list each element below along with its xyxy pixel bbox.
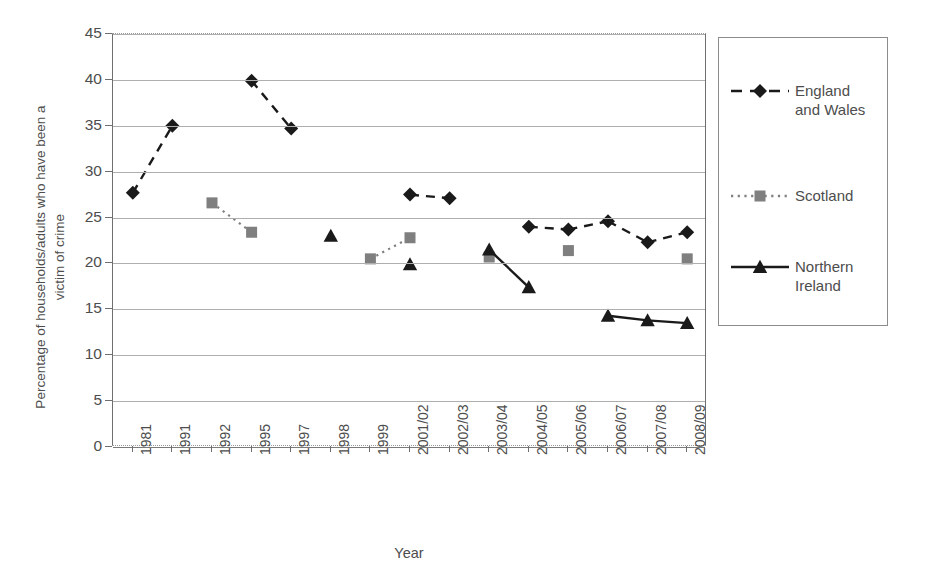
y-axis-line	[112, 34, 113, 445]
y-tick-mark-15	[105, 308, 112, 309]
series-northern-ireland	[324, 229, 695, 329]
x-tick-mark-2008-09	[686, 446, 687, 452]
gridline-10	[113, 355, 705, 356]
legend-label: Scotland	[795, 186, 853, 205]
x-tick-mark-2005-06	[567, 446, 568, 452]
triangle-marker-icon	[729, 258, 791, 276]
data-point-diamond	[680, 225, 694, 239]
data-point-square	[246, 227, 257, 238]
x-tick-label-1991: 1991	[177, 424, 193, 455]
y-tick-mark-20	[105, 262, 112, 263]
y-tick-label-20: 20	[68, 253, 102, 271]
x-tick-mark-2007-08	[647, 446, 648, 452]
x-tick-label-2001-02: 2001/02	[415, 404, 431, 455]
chart-figure: Percentage of households/adults who have…	[0, 0, 935, 586]
x-tick-label-1999: 1999	[375, 424, 391, 455]
plot-right-border	[705, 34, 706, 445]
data-series-layer	[113, 34, 707, 447]
x-tick-label-2004-05: 2004/05	[534, 404, 550, 455]
x-tick-label-1998: 1998	[336, 424, 352, 455]
gridline-25	[113, 218, 705, 219]
data-point-diamond	[522, 220, 536, 234]
y-tick-mark-0	[105, 446, 112, 447]
series-segment	[648, 320, 688, 323]
legend-item-scotland[interactable]: Scotland	[729, 186, 853, 205]
legend-label: England and Wales	[795, 81, 865, 119]
gridline-15	[113, 309, 705, 310]
y-tick-mark-5	[105, 400, 112, 401]
data-point-triangle	[482, 242, 496, 255]
x-tick-label-1981: 1981	[138, 424, 154, 455]
y-tick-label-25: 25	[68, 208, 102, 226]
gridline-45	[113, 34, 705, 35]
data-point-diamond	[561, 222, 575, 236]
x-tick-label-1992: 1992	[217, 424, 233, 455]
series-segment	[370, 238, 410, 259]
x-tick-mark-2002-03	[449, 446, 450, 452]
x-tick-label-1997: 1997	[296, 424, 312, 455]
x-tick-mark-2004-05	[528, 446, 529, 452]
x-tick-label-2006-07: 2006/07	[613, 404, 629, 455]
gridline-20	[113, 263, 705, 264]
y-tick-label-0: 0	[68, 437, 102, 455]
y-tick-label-30: 30	[68, 162, 102, 180]
data-point-diamond	[601, 214, 615, 228]
gridline-5	[113, 401, 705, 402]
y-tick-label-15: 15	[68, 299, 102, 317]
x-tick-mark-2001-02	[409, 446, 410, 452]
y-tick-mark-40	[105, 79, 112, 80]
x-tick-mark-1999	[369, 446, 370, 452]
x-tick-mark-1998	[330, 446, 331, 452]
series-segment	[568, 221, 608, 229]
data-point-square	[405, 232, 416, 243]
series-segment	[608, 221, 648, 242]
data-point-triangle	[601, 309, 615, 322]
data-point-diamond	[443, 191, 457, 205]
gridline-35	[113, 126, 705, 127]
x-tick-mark-1981	[132, 446, 133, 452]
y-axis-title: Percentage of households/adults who have…	[31, 42, 69, 472]
series-england-and-wales	[126, 74, 694, 250]
legend-item-england-and-wales[interactable]: England and Wales	[729, 81, 865, 119]
x-tick-mark-2006-07	[607, 446, 608, 452]
square-marker-icon	[729, 187, 791, 205]
x-tick-mark-1997	[290, 446, 291, 452]
data-point-square	[207, 197, 218, 208]
x-tick-mark-1991	[171, 446, 172, 452]
x-tick-mark-2003-04	[488, 446, 489, 452]
y-tick-mark-10	[105, 354, 112, 355]
data-point-diamond	[403, 188, 417, 202]
x-tick-label-2003-04: 2003/04	[494, 404, 510, 455]
y-tick-mark-45	[105, 33, 112, 34]
y-tick-mark-25	[105, 217, 112, 218]
data-point-diamond	[126, 186, 140, 200]
legend-label: Northern Ireland	[795, 257, 853, 295]
legend-box: England and WalesScotlandNorthern Irelan…	[718, 37, 888, 326]
series-segment	[648, 232, 688, 242]
data-point-square	[563, 245, 574, 256]
series-segment	[252, 81, 292, 129]
x-tick-label-1995: 1995	[257, 424, 273, 455]
data-point-diamond	[641, 235, 655, 249]
plot-area	[112, 33, 706, 446]
x-tick-label-2005-06: 2005/06	[573, 404, 589, 455]
y-tick-label-10: 10	[68, 345, 102, 363]
gridline-30	[113, 172, 705, 173]
x-tick-mark-1992	[211, 446, 212, 452]
diamond-marker-icon	[729, 82, 791, 100]
y-tick-label-40: 40	[68, 70, 102, 88]
y-tick-mark-35	[105, 125, 112, 126]
series-segment	[133, 126, 173, 193]
x-tick-label-2007-08: 2007/08	[653, 404, 669, 455]
y-tick-label-35: 35	[68, 116, 102, 134]
y-tick-mark-30	[105, 171, 112, 172]
gridline-40	[113, 80, 705, 81]
x-axis-title: Year	[112, 545, 706, 561]
x-tick-label-2002-03: 2002/03	[455, 404, 471, 455]
series-scotland	[207, 197, 693, 264]
x-tick-label-2008-09: 2008/09	[692, 404, 708, 455]
y-tick-label-5: 5	[68, 391, 102, 409]
y-tick-label-45: 45	[68, 24, 102, 42]
data-point-triangle	[324, 229, 338, 242]
legend-item-northern-ireland[interactable]: Northern Ireland	[729, 257, 853, 295]
